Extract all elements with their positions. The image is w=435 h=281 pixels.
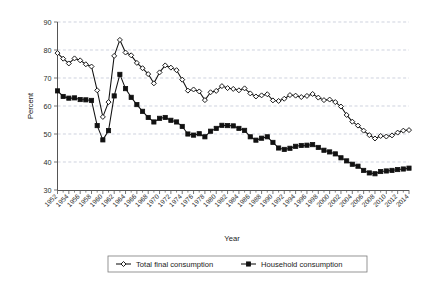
data-point-marker-filled-square [146, 115, 150, 119]
data-point-marker-filled-square [118, 72, 122, 76]
data-point-marker-filled-square [265, 135, 269, 139]
data-point-marker-filled-square [407, 166, 411, 170]
data-point-marker-filled-square [390, 168, 394, 172]
y-tick-label: 70 [44, 74, 52, 83]
data-point-marker-filled-square [61, 94, 65, 98]
data-point-marker-filled-square [367, 171, 371, 175]
chart-background [0, 0, 435, 281]
data-point-marker-filled-square [384, 169, 388, 173]
data-point-marker-filled-square [101, 138, 105, 142]
y-tick-label: 30 [44, 186, 52, 195]
data-point-marker-filled-square [356, 164, 360, 168]
data-point-marker-filled-square [95, 124, 99, 128]
data-point-marker-filled-square [379, 169, 383, 173]
y-tick-label: 80 [44, 46, 52, 55]
data-point-marker-filled-square [328, 150, 332, 154]
data-point-marker-filled-square [225, 124, 229, 128]
data-point-marker-filled-square [214, 126, 218, 130]
data-point-marker-filled-square [246, 262, 250, 266]
chart-figure: 30405060708090 1952195419561958196019621… [0, 0, 435, 281]
data-point-marker-filled-square [362, 168, 366, 172]
data-point-marker-filled-square [123, 87, 127, 91]
data-point-marker-filled-square [231, 124, 235, 128]
data-point-marker-filled-square [294, 144, 298, 148]
data-point-marker-filled-square [78, 97, 82, 101]
y-tick-label: 40 [44, 158, 52, 167]
data-point-marker-filled-square [396, 167, 400, 171]
data-point-marker-filled-square [129, 95, 133, 99]
data-point-marker-filled-square [237, 126, 241, 130]
data-point-marker-filled-square [174, 120, 178, 124]
data-point-marker-filled-square [373, 172, 377, 176]
data-point-marker-filled-square [84, 98, 88, 102]
data-point-marker-filled-square [259, 136, 263, 140]
x-axis-title: Year [224, 234, 240, 243]
data-point-marker-filled-square [345, 159, 349, 163]
data-point-marker-filled-square [277, 146, 281, 150]
data-point-marker-filled-square [197, 132, 201, 136]
line-chart: 30405060708090 1952195419561958196019621… [0, 0, 435, 281]
data-point-marker-filled-square [350, 162, 354, 166]
data-point-marker-filled-square [186, 132, 190, 136]
data-point-marker-filled-square [180, 124, 184, 128]
data-point-marker-filled-square [271, 140, 275, 144]
data-point-marker-filled-square [248, 135, 252, 139]
data-point-marker-filled-square [203, 135, 207, 139]
data-point-marker-filled-square [242, 128, 246, 132]
data-point-marker-filled-square [140, 109, 144, 113]
data-point-marker-filled-square [55, 89, 59, 93]
data-point-marker-filled-square [208, 129, 212, 133]
data-point-marker-filled-square [89, 98, 93, 102]
chart-legend: Total final consumptionHousehold consump… [108, 256, 367, 272]
data-point-marker-filled-square [157, 116, 161, 120]
data-point-marker-filled-square [316, 145, 320, 149]
y-axis-title: Percent [26, 92, 35, 119]
data-point-marker-filled-square [135, 103, 139, 107]
data-point-marker-filled-square [322, 148, 326, 152]
data-point-marker-filled-square [72, 96, 76, 100]
data-point-marker-filled-square [311, 143, 315, 147]
data-point-marker-filled-square [220, 123, 224, 127]
legend-label: Total final consumption [136, 260, 213, 269]
data-point-marker-filled-square [282, 147, 286, 151]
data-point-marker-filled-square [191, 133, 195, 137]
y-tick-label: 90 [44, 18, 52, 27]
data-point-marker-filled-square [169, 118, 173, 122]
data-point-marker-filled-square [67, 96, 71, 100]
y-tick-label: 60 [44, 102, 52, 111]
data-point-marker-filled-square [401, 167, 405, 171]
data-point-marker-filled-square [106, 129, 110, 133]
data-point-marker-filled-square [299, 143, 303, 147]
data-point-marker-filled-square [254, 138, 258, 142]
data-point-marker-filled-square [339, 156, 343, 160]
data-point-marker-filled-square [288, 146, 292, 150]
data-point-marker-filled-square [152, 120, 156, 124]
data-point-marker-filled-square [163, 115, 167, 119]
data-point-marker-filled-square [333, 152, 337, 156]
y-tick-label: 50 [44, 130, 52, 139]
data-point-marker-filled-square [305, 143, 309, 147]
legend-label: Household consumption [261, 260, 342, 269]
data-point-marker-filled-square [112, 94, 116, 98]
